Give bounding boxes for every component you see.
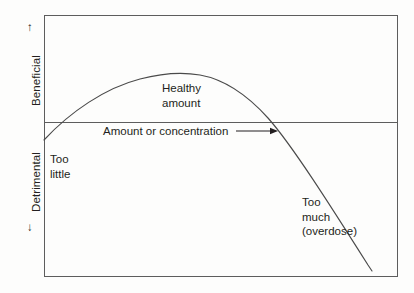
too-much-line-3: (overdose) — [302, 224, 357, 239]
too-little-line-1: Too — [50, 152, 70, 167]
too-much-line-2: much — [302, 210, 357, 225]
beneficial-up-arrow-icon: ↑ — [27, 22, 33, 34]
y-axis-label-detrimental: Detrimental — [30, 152, 42, 212]
healthy-amount-line-2: amount — [162, 96, 201, 111]
too-much-annotation: Too much (overdose) — [302, 195, 357, 239]
too-much-line-1: Too — [302, 195, 357, 210]
detrimental-down-arrow-icon: ↓ — [27, 222, 33, 234]
x-axis-label: Amount or concentration — [103, 124, 228, 139]
too-little-line-2: little — [50, 167, 70, 182]
healthy-amount-line-1: Healthy — [162, 81, 201, 96]
too-little-annotation: Too little — [50, 152, 70, 181]
healthy-amount-annotation: Healthy amount — [162, 81, 201, 110]
dose-response-figure: Beneficial ↑ Detrimental ↓ Amount or con… — [0, 0, 414, 293]
y-axis-label-beneficial: Beneficial — [30, 55, 42, 106]
zero-baseline — [44, 122, 398, 123]
